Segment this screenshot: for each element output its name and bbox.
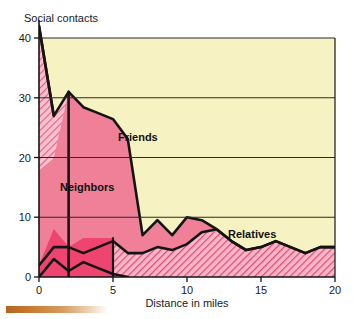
x-tick-label-5: 5 [110, 284, 116, 296]
social-contacts-area-chart: 40 30 20 10 0 0 5 10 15 20 Social contac… [0, 0, 353, 319]
x-tick-label-15: 15 [255, 284, 267, 296]
chart-figure: 40 30 20 10 0 0 5 10 15 20 Social contac… [0, 0, 353, 319]
x-tick-label-10: 10 [181, 284, 193, 296]
x-tick-label-0: 0 [36, 284, 42, 296]
y-tick-label-30: 30 [19, 92, 31, 104]
y-axis-title: Social contacts [24, 12, 98, 24]
orange-gradient-bar [6, 306, 108, 313]
x-tick-label-20: 20 [329, 284, 341, 296]
series-label-friends: Friends [118, 131, 158, 143]
series-label-neighbors: Neighbors [60, 181, 114, 193]
y-tick-label-40: 40 [19, 32, 31, 44]
y-tick-label-0: 0 [25, 271, 31, 283]
y-tick-label-10: 10 [19, 211, 31, 223]
series-label-relatives: Relatives [228, 228, 276, 240]
x-axis-title: Distance in miles [145, 297, 229, 309]
y-tick-label-20: 20 [19, 152, 31, 164]
